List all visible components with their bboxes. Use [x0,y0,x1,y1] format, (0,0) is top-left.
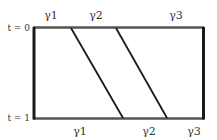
homotopy-diagram: t = 0 t = 1 γ1 γ2 γ3 γ1 γ2 γ3 [0,0,217,140]
bottom-label-gamma2: γ2 [142,125,156,138]
time-label-bottom: t = 1 [7,113,30,123]
bottom-label-gamma3: γ3 [187,125,201,138]
time-label-top: t = 0 [7,23,30,33]
top-label-gamma1: γ1 [44,9,58,22]
top-label-gamma2: γ2 [89,9,103,22]
diagonal-divider-2 [116,28,167,118]
diagonal-divider-1 [71,28,123,118]
top-label-gamma3: γ3 [169,9,183,22]
bottom-label-gamma1: γ1 [73,125,87,138]
